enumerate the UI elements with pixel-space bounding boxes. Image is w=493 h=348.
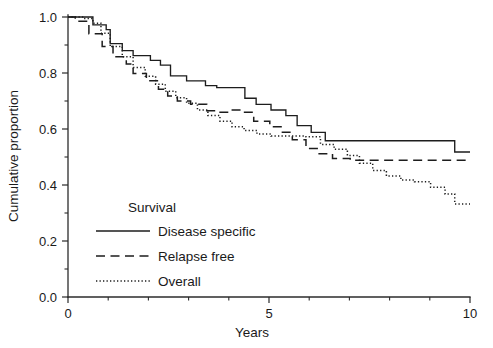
legend-title: Survival: [128, 200, 176, 215]
legend-items: Disease specificRelapse freeOverall: [96, 224, 256, 289]
x-tick-label: 5: [265, 306, 272, 321]
kaplan-meier-chart: 0.00.20.40.60.81.0 Cumulative proportion…: [0, 0, 493, 348]
x-tick-marks: [68, 297, 470, 303]
legend-item: Relapse free: [96, 249, 235, 264]
y-axis-title: Cumulative proportion: [6, 90, 21, 222]
legend-item: Overall: [96, 274, 201, 289]
y-tick-labels: 0.00.20.40.60.81.0: [39, 10, 57, 305]
curve-overall: [68, 17, 470, 204]
x-axis-title: Years: [235, 325, 269, 340]
curve-relapse-free: [68, 17, 470, 160]
x-tick-label: 0: [64, 306, 71, 321]
y-tick-label: 0.2: [39, 234, 57, 249]
legend-label: Relapse free: [158, 249, 235, 264]
y-tick-label: 0.4: [39, 178, 57, 193]
survival-curve-figure: 0.00.20.40.60.81.0 Cumulative proportion…: [0, 0, 493, 348]
x-tick-labels: 0510: [64, 306, 477, 321]
x-axis-group: 0510 Years: [64, 297, 477, 340]
y-tick-label: 0.8: [39, 66, 57, 81]
x-tick-label: 10: [463, 306, 477, 321]
legend-label: Overall: [158, 274, 201, 289]
y-tick-marks: [62, 17, 68, 297]
curve-disease-specific: [68, 17, 470, 152]
legend-label: Disease specific: [158, 224, 256, 239]
survival-curves: [68, 17, 470, 204]
legend-item: Disease specific: [96, 224, 256, 239]
y-tick-label: 1.0: [39, 10, 57, 25]
legend: Survival Disease specificRelapse freeOve…: [96, 200, 256, 289]
y-tick-label: 0.0: [39, 290, 57, 305]
y-tick-label: 0.6: [39, 122, 57, 137]
y-axis-group: 0.00.20.40.60.81.0 Cumulative proportion: [6, 10, 68, 305]
